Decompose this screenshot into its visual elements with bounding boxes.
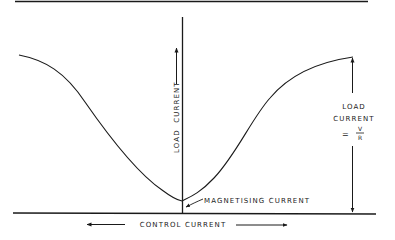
magnetising-current-label: MAGNETISING CURRENT xyxy=(204,197,310,205)
y-axis-label: LOAD CURRENT xyxy=(173,81,181,153)
x-axis-label: CONTROL CURRENT xyxy=(140,221,227,229)
magnetising-current-pointer xyxy=(186,199,203,207)
load-current-annotation-line2: CURRENT xyxy=(333,115,374,123)
load-current-annotation-denominator: R xyxy=(358,134,362,141)
magnetic-amplifier-characteristic-diagram: LOAD CURRENT MAGNETISING CURRENT CONTROL… xyxy=(0,0,395,240)
load-current-annotation-numerator: V xyxy=(358,125,363,132)
load-current-annotation-line1: LOAD xyxy=(342,103,366,111)
x-axis-baseline xyxy=(13,213,376,214)
load-current-curve xyxy=(19,55,353,201)
load-current-annotation-equals: = xyxy=(342,130,350,139)
